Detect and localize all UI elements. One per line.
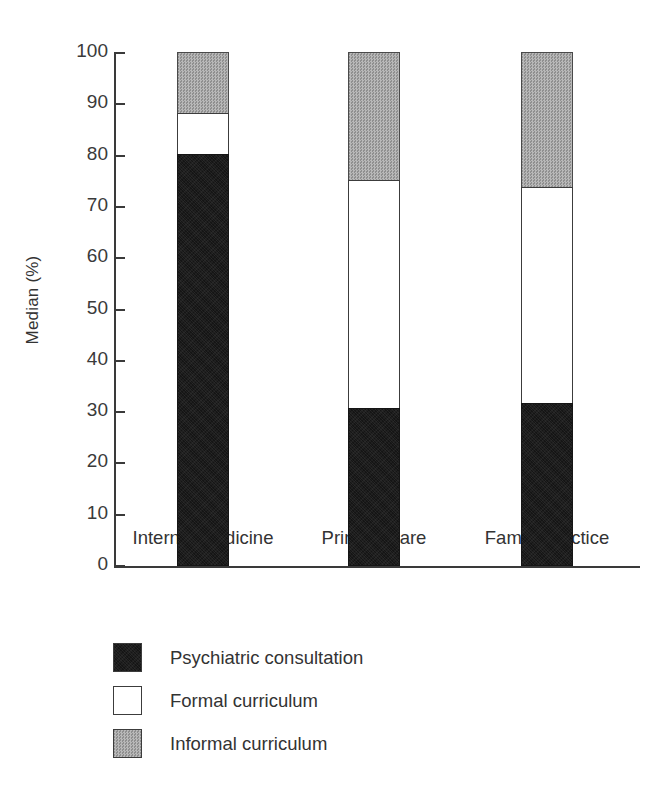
y-axis-tick: 60 — [116, 257, 125, 259]
y-axis-tick-label: 50 — [48, 297, 108, 319]
y-axis-tick-label: 60 — [48, 245, 108, 267]
y-axis-tick: 0 — [116, 565, 125, 567]
y-axis-tick-label: 20 — [48, 450, 108, 472]
bar-segment-informal-curriculum — [348, 52, 400, 182]
legend-item-label: Psychiatric consultation — [170, 647, 363, 669]
bar-segment-informal-curriculum — [177, 52, 229, 115]
legend-item-formal-curriculum: Formal curriculum — [113, 679, 363, 722]
legend-item-label: Formal curriculum — [170, 690, 318, 712]
bar-segment-psychiatric-consultation — [348, 408, 400, 566]
y-axis-tick: 90 — [116, 103, 125, 105]
y-axis-tick: 50 — [116, 309, 125, 311]
y-axis-tick-label: 10 — [48, 502, 108, 524]
plot-area: 1009080706050403020100 — [114, 53, 640, 566]
y-axis-tick-label: 80 — [48, 143, 108, 165]
y-axis-tick: 100 — [116, 52, 125, 54]
bar-segment-formal-curriculum — [521, 187, 573, 404]
black-swatch-icon — [113, 643, 142, 672]
bar-segment-psychiatric-consultation — [521, 403, 573, 566]
legend-item-label: Informal curriculum — [170, 733, 327, 755]
y-axis-tick: 10 — [116, 514, 125, 516]
legend-item-psychiatric-consultation: Psychiatric consultation — [113, 636, 363, 679]
y-axis-tick-label: 70 — [48, 194, 108, 216]
chart-figure: Median (%) 1009080706050403020100 Intern… — [0, 0, 671, 803]
y-axis-tick-label: 100 — [48, 40, 108, 62]
chart-legend: Psychiatric consultation Formal curricul… — [113, 636, 363, 765]
x-axis-line — [114, 566, 640, 568]
y-axis-tick-label: 0 — [48, 553, 108, 575]
y-axis-title: Median (%) — [23, 210, 43, 390]
bar-segment-informal-curriculum — [521, 52, 573, 189]
y-axis-tick: 30 — [116, 411, 125, 413]
y-axis-tick: 80 — [116, 155, 125, 157]
gray-swatch-icon — [113, 729, 142, 758]
bar-segment-formal-curriculum — [177, 113, 229, 156]
white-swatch-icon — [113, 686, 142, 715]
bar-segment-psychiatric-consultation — [177, 154, 229, 566]
bar-segment-formal-curriculum — [348, 180, 400, 410]
y-axis-tick-label: 40 — [48, 348, 108, 370]
y-axis-tick-label: 30 — [48, 399, 108, 421]
legend-item-informal-curriculum: Informal curriculum — [113, 722, 363, 765]
y-axis-tick: 40 — [116, 360, 125, 362]
y-axis-tick-label: 90 — [48, 91, 108, 113]
y-axis-tick: 20 — [116, 462, 125, 464]
y-axis-tick: 70 — [116, 206, 125, 208]
